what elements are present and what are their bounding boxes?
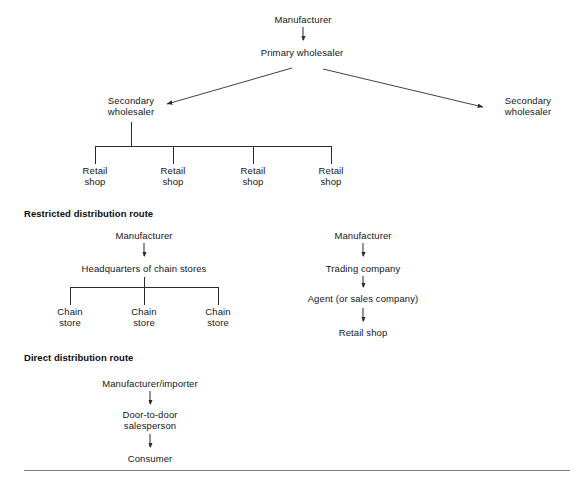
node-restricted-manufacturer: Manufacturer bbox=[115, 230, 172, 241]
node-headquarters-of-chain-stores: Headquarters of chain stores bbox=[82, 263, 207, 274]
chain-store-2-line1: Chain bbox=[131, 306, 156, 317]
chain-store-1-line2: store bbox=[59, 317, 81, 328]
retail-shop-3-line2: shop bbox=[242, 176, 263, 187]
retail-shop-3-line1: Retail bbox=[241, 165, 266, 176]
arrow-primary-to-secondary-right bbox=[323, 69, 483, 107]
arrow-agent-to-retail-shop bbox=[363, 308, 364, 321]
diagram-canvas: Manufacturer Primary wholesaler Secondar… bbox=[0, 0, 585, 492]
chain-store-3-line2: store bbox=[207, 317, 229, 328]
node-chain-store-3: Chainstore bbox=[205, 307, 230, 328]
node-consumer: Consumer bbox=[128, 453, 173, 464]
node-primary-wholesaler: Primary wholesaler bbox=[261, 47, 344, 58]
retail-shop-2-line2: shop bbox=[162, 176, 183, 187]
arrow-manufacturer-importer-to-salesperson bbox=[150, 391, 151, 404]
heading-direct-distribution-route: Direct distribution route bbox=[24, 352, 133, 363]
retail-shop-2-line1: Retail bbox=[161, 165, 186, 176]
arrow-trading-company-to-agent bbox=[363, 276, 364, 287]
node-secondary-wholesaler-left: Secondarywholesaler bbox=[108, 96, 154, 117]
retail-shop-4-line1: Retail bbox=[319, 165, 344, 176]
salesperson-line1: Door-to-door bbox=[122, 409, 177, 420]
retail-shop-1-line1: Retail bbox=[83, 165, 108, 176]
node-trading-manufacturer: Manufacturer bbox=[334, 230, 391, 241]
retail-shop-4-line2: shop bbox=[320, 176, 341, 187]
connector-retail-bus bbox=[95, 146, 332, 147]
secondary-wholesaler-right-line2: wholesaler bbox=[505, 106, 551, 117]
diagonal-arrow-group bbox=[0, 0, 585, 492]
node-retail-shop-1: Retailshop bbox=[83, 166, 108, 187]
connector-chain-store-drop-3 bbox=[218, 287, 219, 305]
bottom-divider bbox=[24, 470, 570, 471]
connector-retail-drop-4 bbox=[331, 146, 332, 164]
chain-store-1-line1: Chain bbox=[57, 306, 82, 317]
chain-store-2-line2: store bbox=[133, 317, 155, 328]
arrow-primary-to-secondary-left bbox=[167, 68, 292, 104]
arrow-restricted-manufacturer-to-headquarters bbox=[144, 243, 145, 256]
node-retail-shop-3: Retailshop bbox=[241, 166, 266, 187]
node-trading-retail-shop: Retail shop bbox=[339, 327, 388, 338]
node-manufacturer-importer: Manufacturer/importer bbox=[102, 378, 198, 389]
heading-restricted-distribution-route: Restricted distribution route bbox=[24, 208, 153, 219]
secondary-wholesaler-right-line1: Secondary bbox=[505, 95, 551, 106]
connector-retail-drop-2 bbox=[173, 146, 174, 164]
node-retail-shop-2: Retailshop bbox=[161, 166, 186, 187]
connector-secondary-wholesaler-stem bbox=[131, 122, 132, 147]
connector-chain-store-drop-2 bbox=[144, 287, 145, 305]
node-door-to-door-salesperson: Door-to-doorsalesperson bbox=[122, 410, 177, 431]
node-agent-or-sales-company: Agent (or sales company) bbox=[308, 293, 419, 304]
node-trading-company: Trading company bbox=[326, 263, 401, 274]
arrow-manufacturer-to-primary-wholesaler bbox=[303, 27, 304, 40]
arrow-manufacturer-to-trading-company bbox=[363, 243, 364, 256]
node-chain-store-2: Chainstore bbox=[131, 307, 156, 328]
chain-store-3-line1: Chain bbox=[205, 306, 230, 317]
connector-retail-drop-1 bbox=[95, 146, 96, 164]
node-retail-shop-4: Retailshop bbox=[319, 166, 344, 187]
secondary-wholesaler-left-line2: wholesaler bbox=[108, 106, 154, 117]
node-manufacturer-top: Manufacturer bbox=[274, 14, 331, 25]
arrow-salesperson-to-consumer bbox=[150, 434, 151, 447]
retail-shop-1-line2: shop bbox=[84, 176, 105, 187]
connector-retail-drop-3 bbox=[253, 146, 254, 164]
salesperson-line2: salesperson bbox=[124, 420, 176, 431]
secondary-wholesaler-left-line1: Secondary bbox=[108, 95, 154, 106]
connector-chain-store-drop-1 bbox=[70, 287, 71, 305]
node-chain-store-1: Chainstore bbox=[57, 307, 82, 328]
node-secondary-wholesaler-right: Secondarywholesaler bbox=[505, 96, 551, 117]
